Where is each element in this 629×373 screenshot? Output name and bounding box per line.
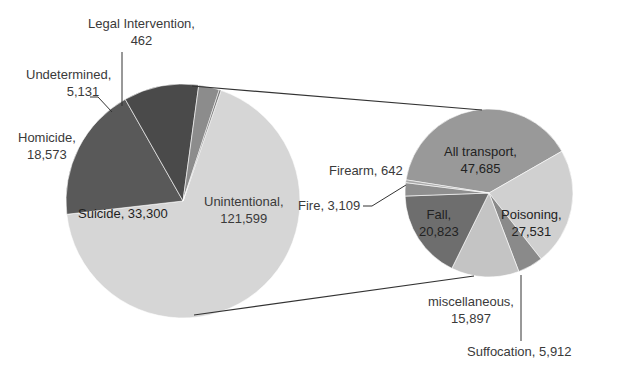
- label-all-transport: All transport, 47,685: [444, 143, 517, 177]
- label-unintentional: Unintentional, 121,599: [204, 193, 284, 227]
- label-text: Suicide, 33,300: [78, 205, 168, 222]
- label-value: 121,599: [204, 210, 284, 227]
- label-homicide: Homicide, 18,573: [18, 129, 76, 163]
- label-legal-intervention: Legal Intervention, 462: [88, 15, 195, 49]
- label-firearm: Firearm, 642: [329, 162, 403, 179]
- label-poisoning: Poisoning, 27,531: [501, 206, 562, 240]
- label-value: 15,897: [428, 310, 514, 327]
- pie-of-pie-chart: [0, 0, 629, 373]
- label-text: Suffocation, 5,912: [467, 343, 572, 360]
- label-value: 27,531: [501, 223, 562, 240]
- label-suffocation: Suffocation, 5,912: [467, 343, 572, 360]
- label-text: Undetermined,: [26, 66, 111, 83]
- label-value: 47,685: [444, 160, 517, 177]
- label-text: Fire, 3,109: [298, 197, 360, 214]
- label-text: Legal Intervention,: [88, 15, 195, 32]
- label-text: Firearm, 642: [329, 162, 403, 179]
- label-text: All transport,: [444, 143, 517, 160]
- label-value: 20,823: [419, 223, 459, 240]
- label-undetermined: Undetermined, 5,131: [26, 66, 111, 100]
- label-value: 462: [88, 32, 195, 49]
- label-value: 5,131: [26, 83, 111, 100]
- secondary-pie: [405, 109, 573, 277]
- label-suicide: Suicide, 33,300: [78, 205, 168, 222]
- leader-fire: [363, 185, 406, 206]
- label-text: Homicide,: [18, 129, 76, 146]
- label-text: Poisoning,: [501, 206, 562, 223]
- label-fire: Fire, 3,109: [298, 197, 360, 214]
- label-miscellaneous: miscellaneous, 15,897: [428, 293, 514, 327]
- label-text: Unintentional,: [204, 193, 284, 210]
- label-text: Fall,: [419, 206, 459, 223]
- label-text: miscellaneous,: [428, 293, 514, 310]
- label-value: 18,573: [18, 146, 76, 163]
- label-fall: Fall, 20,823: [419, 206, 459, 240]
